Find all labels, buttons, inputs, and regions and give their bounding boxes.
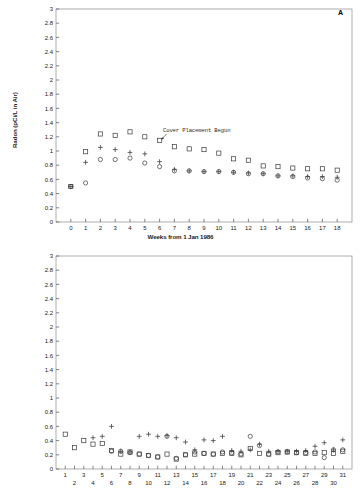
x-tick-label: 22	[256, 480, 263, 486]
x-tick-label: 9	[202, 225, 206, 231]
panel-a: 00.20.40.60.811.21.41.61.822.22.42.62.83…	[0, 0, 361, 250]
panel-a-x-axis-label: Weeks from 1 Jan 1986	[0, 233, 361, 240]
x-tick-label: 12	[164, 480, 171, 486]
data-point-circle	[211, 452, 215, 456]
data-point-plus	[157, 159, 162, 164]
x-tick-label: 9	[138, 472, 142, 478]
data-point-circle	[84, 181, 88, 185]
data-point-plus	[248, 447, 253, 452]
x-tick-label: 14	[275, 225, 282, 231]
data-point-plus	[83, 160, 88, 165]
data-point-plus	[313, 444, 318, 449]
y-tick-label: 2	[50, 324, 54, 330]
x-tick-label: 6	[158, 225, 162, 231]
y-tick-label: 0.8	[45, 162, 54, 168]
data-point-square	[100, 441, 104, 445]
x-tick-label: 17	[319, 225, 326, 231]
y-tick-label: 3	[50, 253, 54, 259]
axes	[56, 9, 352, 222]
data-point-circle	[220, 450, 224, 454]
panel-a-plot: 00.20.40.60.811.21.41.61.822.22.42.62.83…	[0, 0, 361, 250]
x-tick-label: 29	[321, 472, 328, 478]
y-tick-label: 0.6	[45, 177, 54, 183]
x-tick-label: 6	[110, 480, 114, 486]
x-tick-label: 12	[245, 225, 252, 231]
y-tick-label: 2.4	[45, 296, 54, 302]
x-tick-label: 21	[247, 472, 254, 478]
cover-placement-annotation: Cover Placement Begun	[163, 127, 230, 134]
y-tick-label: 2.4	[45, 49, 54, 55]
x-tick-label: 30	[330, 480, 337, 486]
x-tick-label: 23	[265, 472, 272, 478]
y-tick-label: 0.2	[45, 452, 54, 458]
plot-frame	[56, 256, 352, 469]
data-point-square	[165, 452, 169, 456]
plot-frame	[56, 9, 352, 222]
x-tick-label: 20	[238, 480, 245, 486]
x-tick-label: 11	[155, 472, 162, 478]
data-point-plus	[128, 150, 133, 155]
y-tick-label: 3	[50, 6, 54, 12]
y-tick-label: 2.6	[45, 35, 54, 41]
y-tick-label: 2.6	[45, 282, 54, 288]
data-point-square	[72, 446, 76, 450]
data-point-plus	[98, 145, 103, 150]
data-point-square	[98, 132, 102, 136]
x-tick-label: 15	[289, 225, 296, 231]
y-tick-label: 0	[50, 219, 54, 225]
x-tick-label: 27	[302, 472, 309, 478]
axes	[56, 256, 352, 469]
y-tick-label: 2.2	[45, 63, 54, 69]
x-tick-label: 8	[188, 225, 192, 231]
y-tick-label: 2.8	[45, 267, 54, 273]
data-point-square	[158, 138, 162, 142]
x-tick-label: 17	[210, 472, 217, 478]
data-point-plus	[174, 435, 179, 440]
y-tick-label: 1.6	[45, 106, 54, 112]
y-tick-label: 1.4	[45, 120, 54, 126]
x-tick-label: 16	[304, 225, 311, 231]
data-point-square	[202, 147, 206, 151]
x-tick-label: 15	[191, 472, 198, 478]
y-tick-label: 2.8	[45, 20, 54, 26]
y-tick-label: 0.4	[45, 191, 54, 197]
panel-b: 00.20.40.60.811.21.41.61.822.22.42.62.83…	[0, 250, 361, 499]
y-tick-label: 0.4	[45, 438, 54, 444]
y-tick-label: 0.6	[45, 424, 54, 430]
x-tick-label: 3	[114, 225, 118, 231]
annotation-leader	[162, 134, 167, 140]
x-tick-label: 25	[284, 472, 291, 478]
x-tick-label: 8	[128, 480, 132, 486]
x-tick-label: 16	[201, 480, 208, 486]
data-point-plus	[100, 434, 105, 439]
x-tick-label: 13	[260, 225, 267, 231]
data-point-square	[306, 167, 310, 171]
data-point-circle	[128, 156, 132, 160]
y-tick-label: 0.2	[45, 205, 54, 211]
x-tick-label: 4	[91, 480, 95, 486]
x-axis-ticks: 0123456789101112131415161718	[69, 219, 341, 231]
data-point-square	[113, 133, 117, 137]
data-point-circle	[158, 165, 162, 169]
radon-figure: 00.20.40.60.811.21.41.61.822.22.42.62.83…	[0, 0, 361, 499]
x-tick-label: 31	[339, 472, 346, 478]
x-tick-label: 24	[275, 480, 282, 486]
data-point-square	[276, 165, 280, 169]
x-tick-label: 1	[84, 225, 88, 231]
y-tick-label: 1.2	[45, 381, 54, 387]
data-point-plus	[211, 438, 216, 443]
data-point-circle	[248, 434, 252, 438]
data-point-square	[91, 442, 95, 446]
x-tick-label: 14	[182, 480, 189, 486]
x-tick-label: 18	[219, 480, 226, 486]
x-tick-label: 0	[69, 225, 73, 231]
y-tick-label: 0	[50, 466, 54, 472]
data-point-plus	[340, 437, 345, 442]
y-tick-label: 1.4	[45, 367, 54, 373]
data-point-circle	[113, 157, 117, 161]
x-tick-label: 2	[73, 480, 77, 486]
x-tick-label: 28	[312, 480, 319, 486]
data-point-circle	[313, 450, 317, 454]
series-1-square	[69, 130, 340, 189]
y-tick-label: 2.2	[45, 310, 54, 316]
